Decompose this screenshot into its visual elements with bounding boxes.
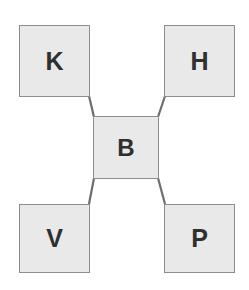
node-p[interactable]: P bbox=[164, 204, 235, 273]
node-h-label: H bbox=[190, 49, 208, 74]
node-h[interactable]: H bbox=[164, 25, 235, 97]
edge-v-b bbox=[89, 178, 94, 204]
node-k[interactable]: K bbox=[19, 25, 90, 97]
edge-k-b bbox=[89, 96, 94, 117]
edge-h-b bbox=[158, 96, 165, 117]
edge-p-b bbox=[158, 178, 165, 204]
node-v-label: V bbox=[46, 226, 63, 251]
diagram-canvas: K H B V P bbox=[0, 0, 249, 290]
node-b[interactable]: B bbox=[93, 116, 159, 179]
node-k-label: K bbox=[45, 49, 63, 74]
node-p-label: P bbox=[191, 226, 208, 251]
node-v[interactable]: V bbox=[19, 204, 90, 273]
node-b-label: B bbox=[117, 136, 134, 160]
